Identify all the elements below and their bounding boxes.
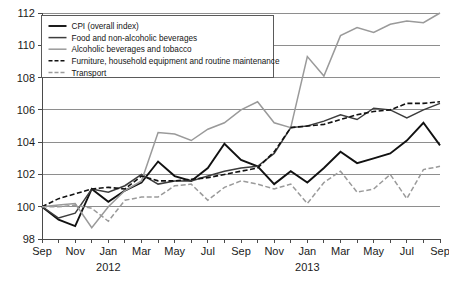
legend-label-alcohol: Alcoholic beverages and tobacco [72,45,193,54]
x-tick-label: Jul [400,245,414,257]
x-axis-year-label: 2013 [295,261,319,273]
x-tick-label: Nov [65,245,85,257]
x-tick-label: Sep [32,245,52,257]
y-tick-label: 100 [17,201,35,213]
y-axis-group: 98100102104106108110112 [17,7,42,245]
x-tick-label: Sep [231,245,251,257]
chart-canvas: 98100102104106108110112 SepNovJanMarMayJ… [0,0,449,283]
x-tick-label: Mar [331,245,350,257]
x-tick-label: May [363,245,384,257]
y-tick-label: 112 [17,7,35,19]
x-tick-label: Jul [201,245,215,257]
legend-label-cpi: CPI (overall index) [72,22,140,31]
x-axis-group: SepNovJanMarMayJulSepNovJanMarMayJulSep [32,239,449,257]
y-tick-label: 108 [17,72,35,84]
y-tick-label: 106 [17,104,35,116]
year-labels-group: 20122013 [96,261,319,273]
legend-label-furniture: Furniture, household equipment and routi… [72,57,280,66]
x-axis-year-label: 2012 [96,261,120,273]
x-tick-label: Sep [430,245,449,257]
legend-label-food: Food and non-alcoholic beverages [72,34,198,43]
y-tick-label: 98 [23,233,35,245]
x-tick-label: May [164,245,185,257]
y-tick-label: 110 [17,39,35,51]
chart-legend: CPI (overall index)Food and non-alcoholi… [42,16,280,78]
x-tick-label: Jan [298,245,316,257]
legend-label-transport: Transport [72,69,107,78]
x-tick-label: Mar [132,245,151,257]
x-tick-label: Nov [264,245,284,257]
y-tick-label: 102 [17,168,35,180]
y-tick-label: 104 [17,136,35,148]
line-chart: 98100102104106108110112 SepNovJanMarMayJ… [0,0,449,283]
x-tick-label: Jan [99,245,117,257]
